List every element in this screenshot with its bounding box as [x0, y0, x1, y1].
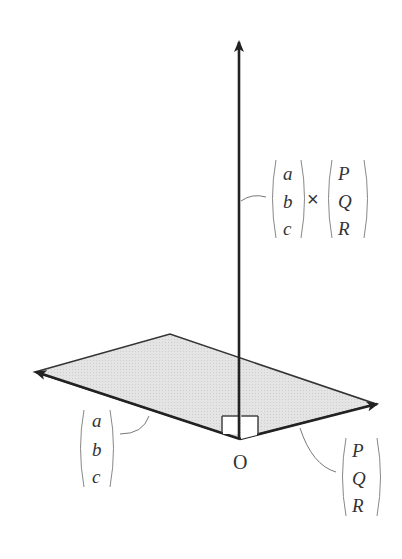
cross-left-a: a — [283, 163, 293, 184]
left-paren-close — [301, 160, 305, 238]
origin-label: O — [233, 451, 247, 473]
pqr-p: P — [351, 440, 364, 461]
leader-pqr — [300, 428, 336, 472]
cross-right-r: R — [337, 218, 350, 239]
cross-left-b: b — [283, 191, 293, 212]
leader-normal — [241, 196, 266, 201]
right-paren-open — [329, 160, 333, 238]
abc-c: c — [92, 466, 101, 487]
cross-right-p: P — [337, 163, 350, 184]
cross-right-q: Q — [338, 191, 352, 212]
abc-paren-open — [81, 410, 85, 487]
abc-a: a — [92, 410, 102, 431]
pqr-r: R — [351, 495, 364, 516]
plane — [35, 334, 376, 439]
cross-product-diagram: O a b c × P Q R a b c P Q R — [0, 0, 402, 559]
left-paren-open — [273, 160, 277, 238]
leader-abc — [120, 416, 149, 434]
cross-operator: × — [307, 188, 319, 210]
vector-pqr-label: P Q R — [343, 438, 381, 516]
pqr-paren-close — [377, 438, 381, 516]
pqr-paren-open — [343, 438, 347, 516]
pqr-q: Q — [352, 468, 366, 489]
abc-b: b — [92, 439, 102, 460]
abc-paren-close — [110, 410, 114, 487]
vector-abc-label: a b c — [81, 410, 114, 487]
cross-left-c: c — [283, 218, 292, 239]
cross-product-label: a b c × P Q R — [273, 160, 368, 239]
right-paren-close — [364, 160, 368, 238]
